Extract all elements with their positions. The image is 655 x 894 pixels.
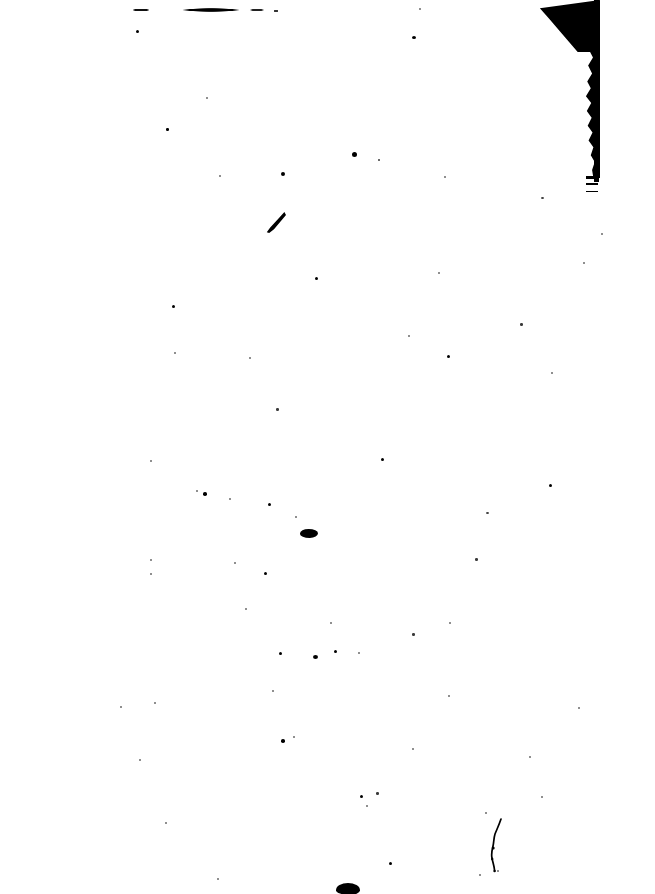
page-surface <box>0 0 655 894</box>
scanned-page <box>0 0 655 894</box>
